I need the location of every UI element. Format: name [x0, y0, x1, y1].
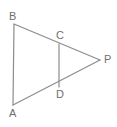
- geometry-figure: B A C D P: [0, 0, 117, 127]
- vertex-label-d: D: [56, 89, 64, 100]
- vertex-label-c: C: [56, 30, 64, 41]
- vertex-label-a: A: [9, 108, 16, 119]
- vertex-label-b: B: [9, 11, 16, 22]
- vertex-label-p: P: [104, 54, 111, 65]
- geometry-canvas: [0, 0, 117, 127]
- segment-ab: [13, 24, 14, 105]
